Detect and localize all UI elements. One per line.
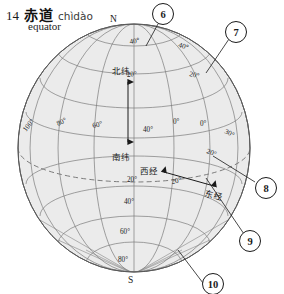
- degree-label-eq0b: 0°: [200, 120, 207, 128]
- globe-diagram: N S 40° 20° 40° 20° 100° 80° 60° 40° 0° …: [0, 0, 284, 294]
- degree-label-eq0: 0°: [173, 118, 180, 126]
- west-longitude-label: 西经: [140, 166, 158, 176]
- north-pole-label: N: [110, 14, 117, 24]
- callout-7[interactable]: 7: [226, 22, 247, 43]
- south-pole-label: S: [128, 275, 133, 285]
- callout-6[interactable]: 6: [153, 4, 174, 25]
- callout-7-label: 7: [233, 27, 238, 38]
- callout-9[interactable]: 9: [240, 231, 261, 252]
- callout-10[interactable]: 10: [203, 274, 224, 294]
- north-latitude-label: 北纬: [112, 66, 130, 76]
- degree-label-s40: 40°: [124, 198, 134, 206]
- south-latitude-label: 南纬: [112, 152, 130, 162]
- dictionary-entry-page: 14赤道chìdào equator: [0, 0, 284, 294]
- degree-label-s80: 80°: [118, 256, 128, 264]
- callout-8[interactable]: 8: [256, 178, 277, 199]
- callout-8-label: 8: [263, 183, 268, 194]
- degree-label-eq40: 40°: [143, 126, 153, 134]
- callout-6-label: 6: [160, 9, 165, 20]
- degree-label-s60: 60°: [120, 228, 130, 236]
- degree-label-s20: 20°: [127, 176, 137, 184]
- callout-9-label: 9: [247, 236, 252, 247]
- callout-10-label: 10: [208, 279, 219, 290]
